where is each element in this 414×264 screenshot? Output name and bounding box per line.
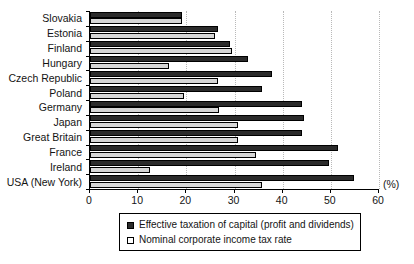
bar-nominal bbox=[90, 152, 256, 158]
bar-effective bbox=[90, 115, 304, 121]
bar-effective bbox=[90, 26, 218, 32]
legend-item: Effective taxation of capital (profit an… bbox=[127, 218, 360, 232]
bar-group bbox=[90, 41, 379, 56]
bar-nominal bbox=[90, 78, 218, 84]
chart-legend: Effective taxation of capital (profit an… bbox=[119, 213, 361, 251]
gridline-60 bbox=[379, 11, 380, 189]
bar-group bbox=[90, 174, 379, 189]
y-axis-label-estonia: Estonia bbox=[47, 26, 82, 40]
bar-effective bbox=[90, 101, 302, 107]
bar-effective bbox=[90, 71, 272, 77]
x-axis-tick-60 bbox=[378, 189, 379, 193]
y-axis-label-poland: Poland bbox=[49, 86, 82, 100]
legend-label: Nominal corporate income tax rate bbox=[139, 234, 292, 246]
bar-nominal bbox=[90, 18, 182, 24]
y-axis-category-labels: SlovakiaEstoniaFinlandHungaryCzech Repub… bbox=[0, 11, 86, 189]
bar-effective bbox=[90, 41, 230, 47]
x-axis-tick-40 bbox=[282, 189, 283, 193]
bar-group bbox=[90, 26, 379, 41]
bar-effective bbox=[90, 145, 338, 151]
bar-nominal bbox=[90, 63, 169, 69]
legend-label: Effective taxation of capital (profit an… bbox=[139, 219, 354, 231]
x-axis-tick-10 bbox=[137, 189, 138, 193]
x-axis-tick-30 bbox=[234, 189, 235, 193]
x-axis-tick-label-60: 60 bbox=[363, 194, 393, 206]
bar-group bbox=[90, 70, 379, 85]
plot-inner bbox=[90, 11, 379, 189]
y-axis-label-great-britain: Great Britain bbox=[23, 130, 82, 144]
y-axis-label-germany: Germany bbox=[39, 100, 82, 114]
bar-group bbox=[90, 85, 379, 100]
x-axis-tick-label-10: 10 bbox=[122, 194, 152, 206]
bar-effective bbox=[90, 12, 182, 18]
x-axis-tick-label-0: 0 bbox=[74, 194, 104, 206]
x-axis-ticks: 0102030405060 bbox=[89, 189, 379, 205]
bar-group bbox=[90, 145, 379, 160]
x-axis-tick-label-40: 40 bbox=[267, 194, 297, 206]
x-axis-tick-label-30: 30 bbox=[219, 194, 249, 206]
bar-nominal bbox=[90, 33, 215, 39]
bar-effective bbox=[90, 130, 302, 136]
bar-nominal bbox=[90, 93, 184, 99]
x-axis-tick-label-20: 20 bbox=[170, 194, 200, 206]
bar-chart: SlovakiaEstoniaFinlandHungaryCzech Repub… bbox=[0, 0, 414, 264]
y-axis-label-slovakia: Slovakia bbox=[42, 11, 82, 25]
legend-swatch-light-icon bbox=[127, 237, 134, 244]
y-axis-label-japan: Japan bbox=[53, 115, 82, 129]
bar-group bbox=[90, 115, 379, 130]
bar-nominal bbox=[90, 122, 238, 128]
y-axis-label-finland: Finland bbox=[48, 41, 82, 55]
x-axis-tick-label-50: 50 bbox=[315, 194, 345, 206]
x-axis-tick-0 bbox=[89, 189, 90, 193]
x-axis-unit-label: (%) bbox=[383, 178, 399, 190]
plot-area bbox=[89, 11, 379, 189]
bar-nominal bbox=[90, 167, 150, 173]
bar-effective bbox=[90, 56, 248, 62]
y-axis-label-ireland: Ireland bbox=[50, 160, 82, 174]
bar-effective bbox=[90, 86, 262, 92]
bar-nominal bbox=[90, 107, 219, 113]
bar-nominal bbox=[90, 137, 238, 143]
bar-effective bbox=[90, 175, 354, 181]
bar-nominal bbox=[90, 48, 232, 54]
y-axis-label-hungary: Hungary bbox=[42, 56, 82, 70]
legend-swatch-dark-icon bbox=[127, 222, 134, 229]
bar-group bbox=[90, 56, 379, 71]
bar-group bbox=[90, 159, 379, 174]
bar-group bbox=[90, 11, 379, 26]
y-axis-label-czech-republic: Czech Republic bbox=[8, 71, 82, 85]
bar-group bbox=[90, 100, 379, 115]
bar-nominal bbox=[90, 182, 262, 188]
bar-group bbox=[90, 130, 379, 145]
x-axis-tick-50 bbox=[330, 189, 331, 193]
y-axis-label-usa-new-york: USA (New York) bbox=[7, 175, 82, 189]
legend-item: Nominal corporate income tax rate bbox=[127, 233, 360, 247]
bar-effective bbox=[90, 160, 329, 166]
x-axis-tick-20 bbox=[185, 189, 186, 193]
y-axis-label-france: France bbox=[49, 145, 82, 159]
